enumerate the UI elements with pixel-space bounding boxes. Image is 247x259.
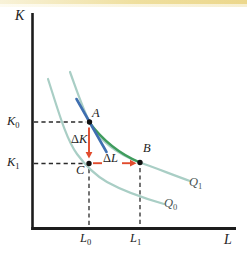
delta-l-symbol: Δ [103,151,111,165]
curve-q0-sub: 0 [173,202,177,212]
delta-k-var: K [79,132,87,146]
point-label-a: A [92,107,100,120]
tick-l0-sub: 0 [87,237,91,247]
delta-k-label: ΔK [71,133,87,146]
tick-k0-sub: 0 [15,120,19,130]
delta-k-arrowhead-icon [86,152,93,159]
delta-l-label: ΔL [103,152,118,165]
point-label-c: C [76,164,84,177]
y-axis-label: K [15,9,24,23]
tick-label-k1: K1 [7,156,20,171]
curve-q1-sub: 1 [198,181,202,191]
curve-q0-base: Q [164,196,173,210]
tick-l0-base: L [80,231,87,245]
curve-label-q0: Q0 [164,197,177,212]
isoquant-figure: K L K0 K1 L0 L1 A B C ΔK ΔL Q1 Q0 [0,0,247,259]
delta-k-symbol: Δ [71,132,79,146]
tick-label-l1: L1 [130,232,141,247]
point-label-b: B [143,142,151,155]
tick-label-k0: K0 [7,115,20,130]
x-axis-label: L [224,233,232,247]
tick-l1-base: L [130,231,137,245]
tick-l1-sub: 1 [137,237,141,247]
figure-canvas [0,0,247,259]
delta-l-var: L [111,151,118,165]
curve-label-q1: Q1 [189,176,202,191]
tick-label-l0: L0 [80,232,91,247]
tick-k1-sub: 1 [15,161,19,171]
curve-q1-base: Q [189,175,198,189]
